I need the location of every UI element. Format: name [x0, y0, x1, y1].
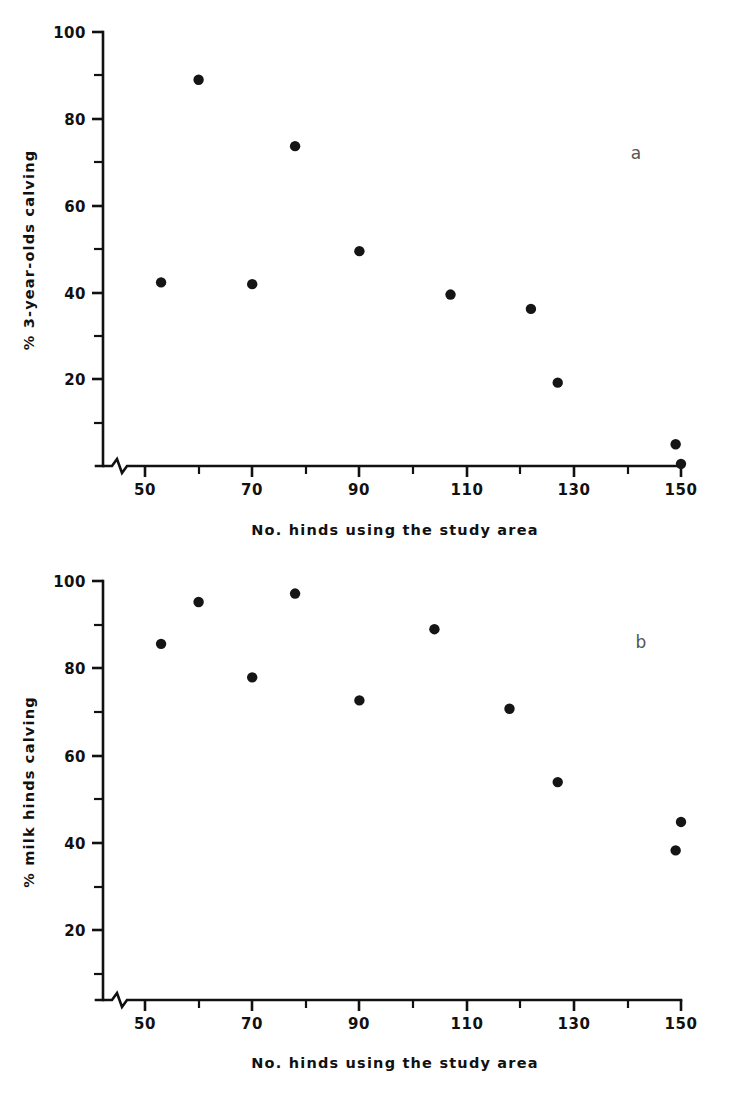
- panel-label-a: a: [631, 143, 641, 163]
- data-point: [247, 279, 257, 289]
- data-point: [247, 672, 257, 682]
- data-point: [676, 459, 686, 469]
- y-minor-ticks-a: [94, 75, 103, 423]
- x-tick-label-b-50: 50: [134, 1015, 156, 1033]
- panel-label-b: b: [636, 632, 647, 652]
- data-point: [290, 141, 300, 151]
- data-point: [193, 75, 203, 85]
- x-axis-title-a: No. hinds using the study area: [251, 522, 538, 538]
- data-point: [156, 277, 166, 287]
- data-point: [193, 597, 203, 607]
- x-tick-label-a-150: 150: [665, 481, 698, 499]
- x-tick-label-a-90: 90: [348, 481, 370, 499]
- y-tick-label-b-60: 60: [64, 748, 86, 766]
- data-points-b: [156, 588, 686, 855]
- x-tick-label-b-130: 130: [558, 1015, 591, 1033]
- y-major-ticks-a: [92, 32, 103, 379]
- x-tick-label-b-70: 70: [241, 1015, 263, 1033]
- data-point: [290, 588, 300, 598]
- data-point: [526, 304, 536, 314]
- data-point: [670, 439, 680, 449]
- x-tick-label-a-50: 50: [134, 481, 156, 499]
- y-tick-label-b-20: 20: [64, 922, 86, 940]
- x-tick-label-b-110: 110: [451, 1015, 484, 1033]
- x-tick-label-b-150: 150: [665, 1015, 698, 1033]
- data-point: [445, 289, 455, 299]
- data-point: [553, 777, 563, 787]
- data-point: [354, 695, 364, 705]
- data-point: [354, 246, 364, 256]
- data-point: [676, 817, 686, 827]
- y-tick-label-a-40: 40: [64, 285, 86, 303]
- x-tick-label-b-90: 90: [348, 1015, 370, 1033]
- y-tick-label-b-40: 40: [64, 835, 86, 853]
- data-point: [504, 704, 514, 714]
- y-tick-label-b-80: 80: [64, 660, 86, 678]
- y-axis-title-b: % milk hinds calving: [21, 696, 37, 887]
- x-axis-line-b: [96, 993, 681, 1007]
- y-tick-label-a-60: 60: [64, 198, 86, 216]
- panel-b-plot: 100 80 60 40 20 50: [0, 547, 755, 1094]
- x-tick-label-a-70: 70: [241, 481, 263, 499]
- y-major-ticks-b: [92, 581, 103, 930]
- data-point: [670, 845, 680, 855]
- y-minor-ticks-b: [94, 625, 103, 974]
- y-tick-label-b-100: 100: [53, 573, 86, 591]
- x-axis-line-a: [96, 459, 681, 473]
- x-tick-label-a-110: 110: [451, 481, 484, 499]
- x-tick-label-a-130: 130: [558, 481, 591, 499]
- figure-scatter-plots: 100 80 60 40 20 50: [0, 0, 755, 1094]
- y-tick-label-a-20: 20: [64, 371, 86, 389]
- x-axis-title-b: No. hinds using the study area: [251, 1055, 538, 1071]
- panel-b: 100 80 60 40 20 50: [0, 547, 755, 1094]
- y-tick-label-a-100: 100: [53, 24, 86, 42]
- data-point: [553, 377, 563, 387]
- y-axis-title-a: % 3-year-olds calving: [21, 150, 37, 351]
- y-tick-label-a-80: 80: [64, 111, 86, 129]
- data-points-a: [156, 75, 686, 469]
- data-point: [156, 639, 166, 649]
- panel-a-plot: 100 80 60 40 20 50: [0, 0, 755, 547]
- data-point: [429, 624, 439, 634]
- panel-a: 100 80 60 40 20 50: [0, 0, 755, 547]
